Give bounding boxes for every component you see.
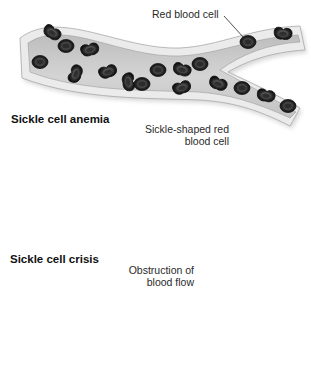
label-obstruction: Obstruction of blood flow <box>118 264 194 288</box>
label-line: blood cell <box>145 135 229 147</box>
label-line: Sickle-shaped red <box>145 123 229 135</box>
title-sickle-cell-anemia: Sickle cell anemia <box>11 113 109 125</box>
title-sickle-cell-crisis: Sickle cell crisis <box>10 253 99 265</box>
label-sickle-shaped-cell: Sickle-shaped red blood cell <box>145 123 229 147</box>
label-line: blood flow <box>118 276 194 288</box>
label-red-blood-cell: Red blood cell <box>152 8 219 20</box>
leader-red-blood-cell <box>224 16 244 38</box>
label-line: Red blood cell <box>152 8 219 20</box>
label-line: Obstruction of <box>118 264 194 276</box>
sickle-cell-diagram <box>0 0 311 392</box>
